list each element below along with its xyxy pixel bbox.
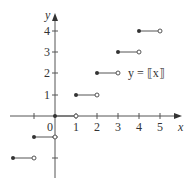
function-label: y = ⟦x⟧: [128, 66, 165, 80]
y-tick-label: 2: [44, 66, 50, 80]
closed-points: [11, 29, 141, 160]
y-tick-label: 4: [44, 24, 50, 38]
y-axis-arrow-icon: [52, 13, 58, 21]
x-tick-label: 4: [136, 120, 142, 134]
open-points: [32, 29, 162, 160]
x-axis-label: x: [177, 120, 184, 134]
x-axis-arrow-icon: [174, 113, 182, 119]
x-tick-label: 2: [94, 120, 100, 134]
step-function-chart: 0 1 2 3 4 5 x 1 2 3 4 y y = ⟦x⟧: [0, 0, 195, 182]
y-tick-label: 3: [44, 45, 50, 59]
x-tick-label: 3: [115, 120, 121, 134]
x-tick-label: 5: [157, 120, 163, 134]
origin-label: 0: [47, 120, 53, 134]
y-tick-label: 1: [44, 88, 50, 102]
x-tick-label: 1: [73, 120, 79, 134]
y-axis-label: y: [44, 8, 51, 22]
axes: [10, 18, 178, 178]
